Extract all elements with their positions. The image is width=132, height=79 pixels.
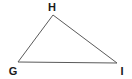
triangle-svg: H G I <box>0 0 132 79</box>
vertex-label-h: H <box>48 1 56 13</box>
triangle-ghi <box>18 15 117 63</box>
vertex-label-g: G <box>9 65 18 77</box>
vertex-label-i: I <box>120 65 123 77</box>
triangle-diagram: H G I <box>0 0 132 79</box>
